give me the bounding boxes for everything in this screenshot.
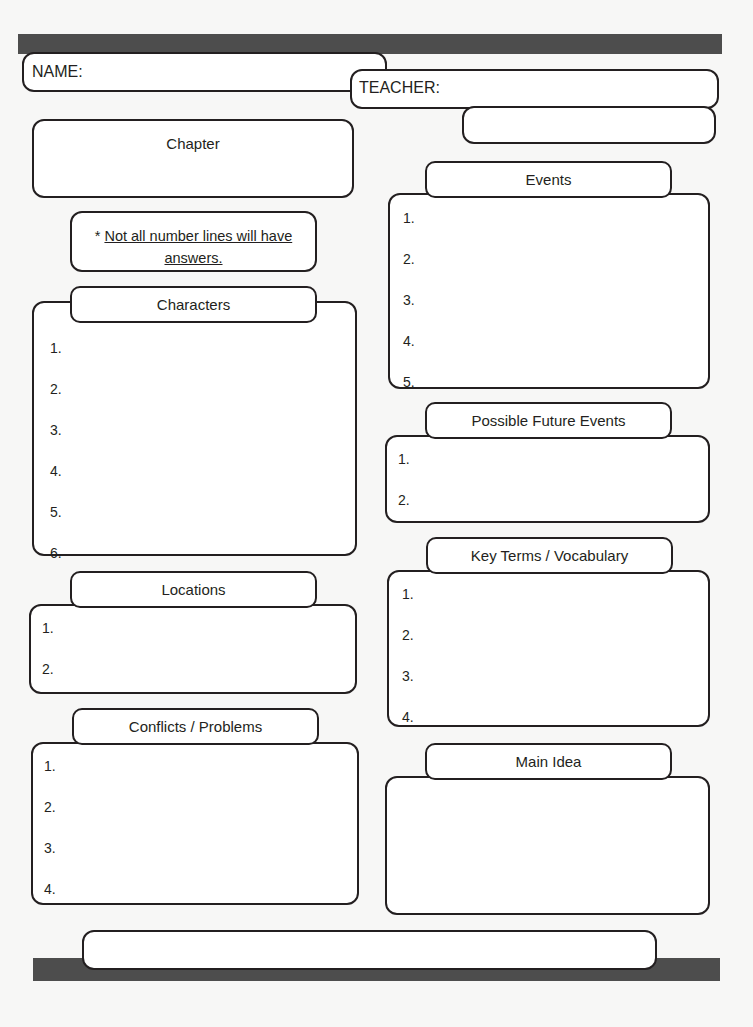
footer-blank-field[interactable] (82, 930, 657, 970)
characters-number-list: 1. 2. 3. 4. 5. 6. (50, 341, 62, 560)
list-number: 5. (50, 505, 62, 519)
conflicts-title: Conflicts / Problems (129, 719, 262, 734)
list-number: 4. (50, 464, 62, 478)
list-number: 5. (403, 375, 415, 389)
name-field-label: NAME: (32, 64, 83, 80)
list-number: 1. (44, 759, 56, 773)
events-number-list: 1. 2. 3. 4. 5. (403, 211, 415, 389)
note-text: * Not all number lines will have answers… (82, 225, 305, 270)
conflicts-box[interactable] (31, 742, 359, 905)
chapter-box[interactable] (32, 119, 354, 198)
key-terms-number-list: 1. 2. 3. 4. (402, 587, 414, 724)
events-label-tab: Events (425, 161, 672, 198)
top-decorative-bar (18, 34, 722, 54)
locations-label-tab: Locations (70, 571, 317, 608)
list-number: 4. (402, 710, 414, 724)
key-terms-label-tab: Key Terms / Vocabulary (426, 537, 673, 574)
key-terms-title: Key Terms / Vocabulary (471, 548, 628, 563)
locations-box[interactable] (29, 604, 357, 694)
list-number: 2. (44, 800, 56, 814)
list-number: 3. (44, 841, 56, 855)
note-asterisk: * (95, 228, 105, 244)
list-number: 2. (402, 628, 414, 642)
locations-number-list: 1. 2. (42, 621, 54, 676)
list-number: 3. (402, 669, 414, 683)
worksheet-page: NAME: TEACHER: Date: Chapter * Not all n… (0, 0, 753, 1027)
main-idea-label-tab: Main Idea (425, 743, 672, 780)
main-idea-box[interactable] (385, 776, 710, 915)
list-number: 1. (402, 587, 414, 601)
chapter-title: Chapter (32, 136, 354, 151)
list-number: 2. (398, 493, 410, 507)
list-number: 2. (50, 382, 62, 396)
note-underlined-text: Not all number lines will have answers. (104, 228, 292, 266)
main-idea-title: Main Idea (516, 754, 582, 769)
conflicts-number-list: 1. 2. 3. 4. (44, 759, 56, 896)
date-field[interactable] (462, 106, 716, 144)
events-box[interactable] (388, 193, 710, 389)
possible-future-events-box[interactable] (385, 435, 710, 523)
list-number: 3. (50, 423, 62, 437)
events-title: Events (526, 172, 572, 187)
characters-title: Characters (157, 297, 230, 312)
list-number: 1. (42, 621, 54, 635)
note-box: * Not all number lines will have answers… (70, 211, 317, 272)
list-number: 1. (50, 341, 62, 355)
list-number: 4. (403, 334, 415, 348)
key-terms-box[interactable] (387, 570, 710, 727)
list-number: 4. (44, 882, 56, 896)
list-number: 1. (398, 452, 410, 466)
list-number: 2. (42, 662, 54, 676)
possible-future-events-label-tab: Possible Future Events (425, 402, 672, 439)
list-number: 3. (403, 293, 415, 307)
characters-label-tab: Characters (70, 286, 317, 323)
locations-title: Locations (161, 582, 225, 597)
possible-future-events-title: Possible Future Events (471, 413, 625, 428)
characters-box[interactable] (32, 301, 357, 556)
possible-future-events-number-list: 1. 2. (398, 452, 410, 507)
conflicts-label-tab: Conflicts / Problems (72, 708, 319, 745)
list-number: 1. (403, 211, 415, 225)
teacher-field-label: TEACHER: (359, 80, 440, 96)
list-number: 6. (50, 546, 62, 560)
list-number: 2. (403, 252, 415, 266)
